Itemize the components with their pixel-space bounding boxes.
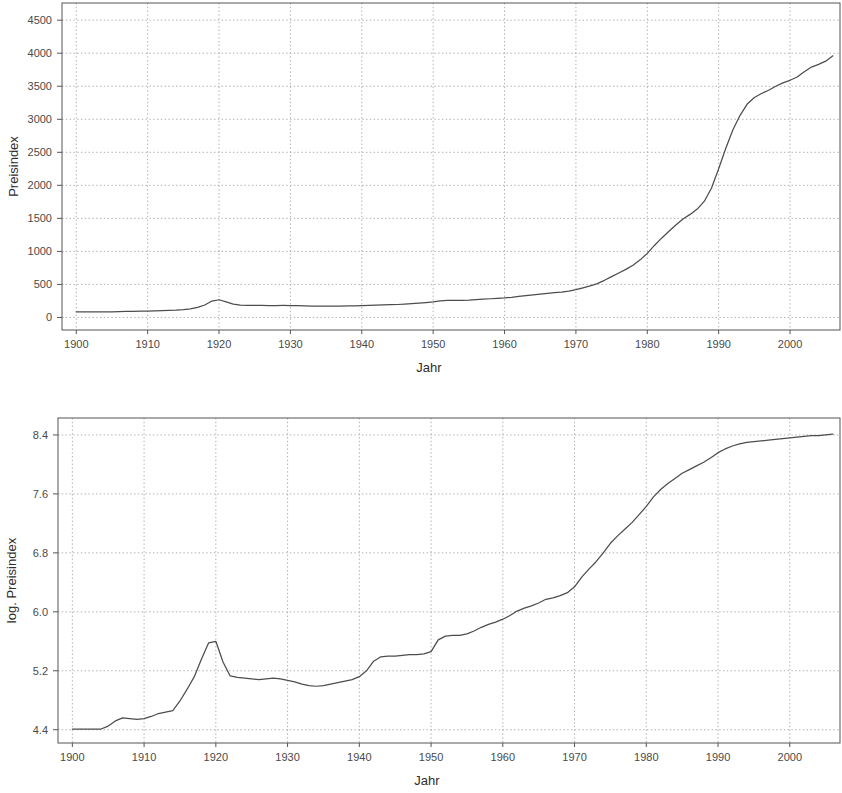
x-axis-tick-label: 1990 [706, 751, 730, 763]
x-axis-tick-label: 1940 [347, 751, 371, 763]
chart-panel-preisindex: 1900191019201930194019501960197019801990… [0, 0, 842, 396]
y-axis-tick-label: 4000 [28, 47, 52, 59]
y-axis-tick-label: 6.0 [33, 606, 48, 618]
x-axis-tick-label: 1970 [562, 751, 586, 763]
x-axis-tick-label: 1990 [706, 338, 730, 350]
x-axis-tick-label: 1910 [135, 338, 159, 350]
y-axis-tick-label: 5.2 [33, 665, 48, 677]
log-preisindex-linechart: 1900191019201930194019501960197019801990… [0, 396, 842, 793]
y-axis-tick-label: 4500 [28, 14, 52, 26]
data-series-line [76, 56, 833, 312]
x-axis-tick-label: 1980 [635, 338, 659, 350]
y-axis-title: log. Preisindex [4, 537, 19, 623]
x-axis-tick-label: 2000 [778, 338, 802, 350]
x-axis-title: Jahr [414, 773, 440, 788]
data-series-line [72, 434, 832, 729]
price-index-figure: 1900191019201930194019501960197019801990… [0, 0, 842, 793]
x-axis-tick-label: 1900 [64, 338, 88, 350]
x-axis-tick-label: 1920 [207, 338, 231, 350]
plot-frame [58, 418, 840, 743]
y-axis-tick-label: 1000 [28, 245, 52, 257]
x-axis-tick-label: 1900 [60, 751, 84, 763]
x-axis-title: Jahr [416, 360, 442, 375]
y-axis-tick-label: 2000 [28, 179, 52, 191]
y-axis-tick-label: 500 [34, 278, 52, 290]
x-axis-tick-label: 1960 [491, 751, 515, 763]
y-axis-tick-label: 6.8 [33, 547, 48, 559]
x-axis-tick-label: 1940 [350, 338, 374, 350]
y-axis-title: Preisindex [6, 136, 21, 197]
y-axis-tick-label: 1500 [28, 212, 52, 224]
y-axis-tick-label: 4.4 [33, 724, 48, 736]
y-axis-tick-label: 0 [46, 311, 52, 323]
x-axis-tick-label: 1920 [204, 751, 228, 763]
y-axis-tick-label: 2500 [28, 146, 52, 158]
y-axis-tick-label: 3500 [28, 80, 52, 92]
x-axis-tick-label: 1980 [634, 751, 658, 763]
plot-frame [62, 3, 840, 330]
y-axis-tick-label: 3000 [28, 113, 52, 125]
x-axis-tick-label: 1930 [275, 751, 299, 763]
chart-panel-log-preisindex: 1900191019201930194019501960197019801990… [0, 396, 842, 793]
y-axis-tick-label: 7.6 [33, 488, 48, 500]
x-axis-tick-label: 1910 [132, 751, 156, 763]
x-axis-tick-label: 1950 [419, 751, 443, 763]
x-axis-tick-label: 1930 [278, 338, 302, 350]
x-axis-tick-label: 1970 [564, 338, 588, 350]
x-axis-tick-label: 2000 [778, 751, 802, 763]
preisindex-linechart: 1900191019201930194019501960197019801990… [0, 0, 842, 396]
x-axis-tick-label: 1960 [492, 338, 516, 350]
x-axis-tick-label: 1950 [421, 338, 445, 350]
y-axis-tick-label: 8.4 [33, 429, 48, 441]
